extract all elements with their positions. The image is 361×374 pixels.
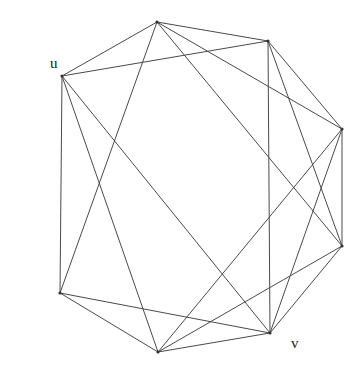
edge-layer [60,22,342,352]
graph-vertex [268,331,271,334]
graph-edge [62,76,158,352]
graph-vertex [58,291,61,294]
vertex-label-v: v [291,336,299,351]
graph-edge [268,41,270,333]
graph-edge [270,246,342,333]
graph-edge [157,22,342,246]
graph-vertex [340,127,343,130]
graph-vertex [340,244,343,247]
graph-edge [62,76,270,333]
graph-vertex [156,350,159,353]
graph-edge [270,129,342,333]
graph-vertex [60,74,63,77]
graph-figure: u v [0,0,361,374]
graph-edge [158,129,342,352]
graph-vertex [155,20,158,23]
graph-edge [268,41,342,246]
vertex-label-u: u [50,56,58,71]
graph-edge [60,293,270,333]
node-layer [58,20,343,353]
graph-vertex [266,39,269,42]
graph-edge [60,76,62,293]
graph-edge [268,41,342,129]
